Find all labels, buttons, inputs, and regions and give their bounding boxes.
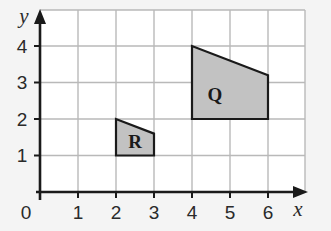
x-tick-label-1: 1 (73, 202, 84, 223)
shape-q-label: Q (208, 84, 223, 105)
x-tick-label-5: 5 (225, 202, 236, 223)
y-axis-label: y (17, 4, 29, 28)
y-tick-label-4: 4 (17, 36, 28, 57)
origin-label: 0 (21, 202, 32, 223)
coordinate-grid-diagram: R Q 1 2 3 4 5 6 0 1 2 3 4 y x (0, 0, 331, 231)
x-tick-label-6: 6 (263, 202, 274, 223)
x-tick-label-3: 3 (149, 202, 160, 223)
y-tick-label-2: 2 (17, 109, 28, 130)
x-axis-label: x (292, 197, 303, 221)
shape-r-label: R (128, 131, 142, 152)
x-tick-label-4: 4 (187, 202, 198, 223)
y-tick-label-3: 3 (17, 72, 28, 93)
y-tick-label-1: 1 (17, 145, 28, 166)
x-tick-label-2: 2 (111, 202, 122, 223)
